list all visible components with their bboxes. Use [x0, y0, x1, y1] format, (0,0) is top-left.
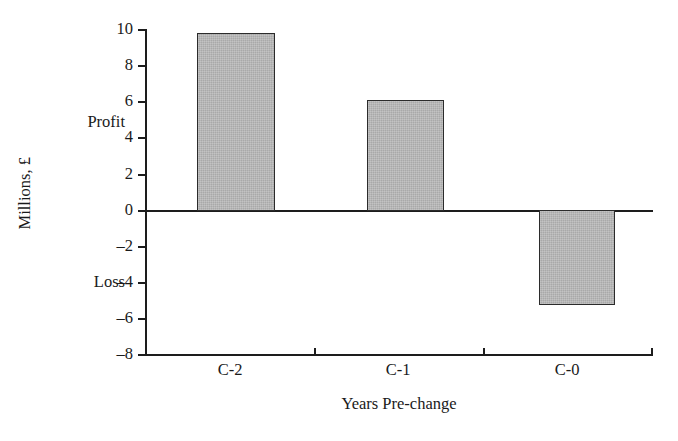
y-tick-label-10: 10 [93, 21, 133, 38]
y-tick-label-8: 8 [93, 57, 133, 74]
y-tick-4 [138, 137, 145, 139]
y-axis-title: Millions, £ [17, 108, 34, 278]
y-tick-label-2: 2 [93, 166, 133, 183]
x-tick-boundary-1 [314, 348, 316, 356]
x-label-c-2: C-2 [170, 362, 290, 379]
y-tick-2 [138, 174, 145, 176]
profit-annotation: Profit [45, 114, 125, 131]
x-tick-boundary-2 [483, 348, 485, 356]
y-tick-label-neg2: –2 [93, 238, 133, 255]
y-tick-6 [138, 101, 145, 103]
bar-chart-figure: 10 8 6 4 2 0 –2 –4 –6 –8 C-2 C-1 C-0 Yea… [0, 0, 678, 441]
y-tick-label-6: 6 [93, 93, 133, 110]
y-tick-neg6 [138, 318, 145, 320]
x-label-c-1: C-1 [338, 362, 458, 379]
y-tick-10 [138, 29, 145, 31]
x-tick-boundary-0 [145, 348, 147, 356]
y-tick-neg2 [138, 246, 145, 248]
bar-c-0 [539, 210, 615, 305]
y-tick-0 [138, 210, 152, 212]
y-tick-label-4: 4 [93, 129, 133, 146]
x-label-c-0: C-0 [507, 362, 627, 379]
bar-c-1 [367, 100, 444, 211]
y-tick-label-neg8: –8 [93, 346, 133, 363]
y-tick-label-0: 0 [93, 202, 133, 219]
y-tick-label-neg6: –6 [93, 310, 133, 327]
loss-annotation: Loss [45, 274, 125, 291]
x-tick-boundary-3 [651, 348, 653, 356]
y-tick-8 [138, 65, 145, 67]
bar-c-2 [197, 33, 275, 211]
y-tick-neg4 [138, 282, 145, 284]
x-axis-title: Years Pre-change [145, 396, 653, 413]
x-axis-line [145, 354, 653, 356]
y-axis-line [145, 29, 147, 356]
